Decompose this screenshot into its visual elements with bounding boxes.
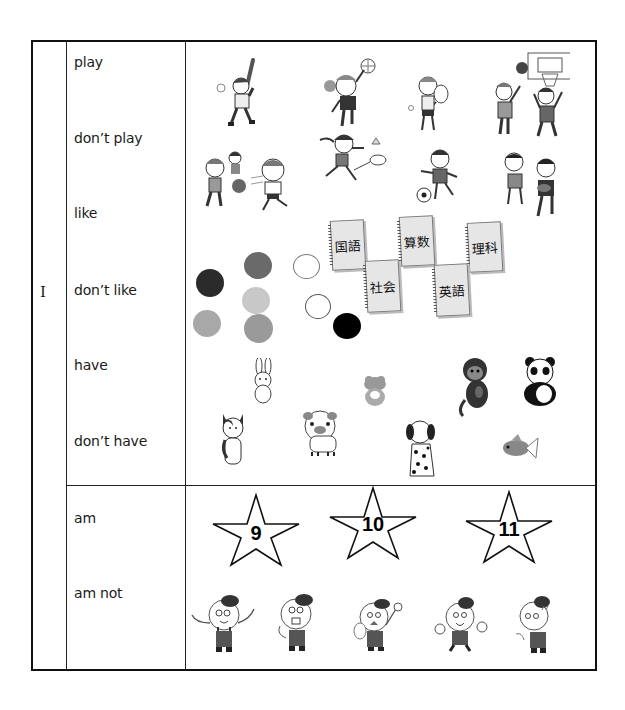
label-am-not: am not [74,585,122,601]
goldfish-icon [500,432,540,460]
color-circle-white-2 [305,294,331,319]
color-circle-black [196,269,224,297]
label-am: am [74,510,96,526]
dodgeball-players-icon [203,148,298,213]
label-play: play [74,54,103,70]
svg-text:10: 10 [362,513,384,535]
dalmatian-icon [404,418,440,482]
panda-icon [520,356,560,408]
star-age-10: 10 [329,486,417,560]
basketball-players-icon [490,52,570,142]
color-circle-white [293,254,320,279]
rugby-players-icon [498,148,570,223]
color-circle-black-2 [333,313,361,339]
character-waving-icon [188,593,260,655]
rabbit-icon [250,358,276,406]
character-worried-icon [512,594,562,656]
character-angry-icon [350,597,408,655]
notebook-sansu: 算数 [399,215,436,267]
color-circle-mid-gray [244,314,273,343]
notebook-kokugo: 国語 [330,219,367,271]
column-divider-labels [185,41,186,670]
notebook-eigo: 英語 [434,263,471,317]
pig-icon [300,408,348,458]
monkey-icon [455,356,491,418]
color-circle-dark-gray [244,252,272,279]
label-dont-have: don’t have [74,433,147,449]
label-like: like [74,205,97,221]
subject-label: I [40,283,46,301]
badminton-player-icon [318,130,388,185]
svg-text:9: 9 [250,522,261,544]
color-circle-gray [193,310,221,337]
label-dont-like: don’t like [74,282,137,298]
soccer-player-icon [415,145,465,205]
notebook-rika: 理科 [467,221,504,273]
color-circle-light-gray [242,287,270,314]
cat-icon [215,410,251,468]
volleyball-player-icon [318,56,378,131]
star-age-11: 11 [465,490,553,564]
baseball-player-icon [215,58,270,133]
column-divider-subject [66,41,67,670]
svg-text:11: 11 [498,518,519,540]
frog-icon [362,375,388,407]
notebook-shakai: 社会 [365,259,402,313]
tennis-player-icon [408,70,453,135]
star-age-9: 9 [212,493,300,567]
character-surprised-icon [272,592,324,654]
label-dont-play: don’t play [74,130,142,146]
label-have: have [74,357,108,373]
character-cheering-icon [432,595,490,655]
